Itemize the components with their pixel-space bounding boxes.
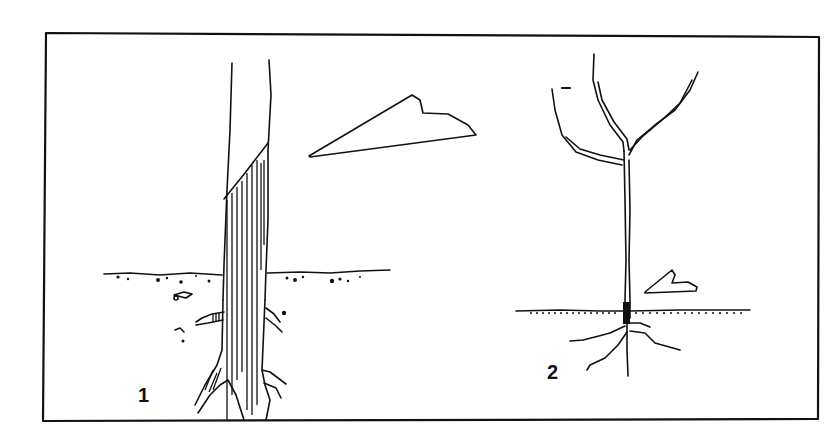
panel-2-soil-line <box>516 310 750 313</box>
panel-2-sapling <box>552 54 698 376</box>
diagram-canvas <box>0 0 839 437</box>
panel-1-arrow-icon <box>309 95 476 157</box>
panel-1-tree <box>195 60 286 420</box>
panel-2-label: 2 <box>547 361 558 384</box>
panel-2-arrow-icon <box>645 270 697 293</box>
panel-1-label: 1 <box>138 384 149 407</box>
illustration-stage <box>0 0 839 437</box>
figure-frame <box>43 33 819 421</box>
trunk-hatching <box>227 160 264 420</box>
